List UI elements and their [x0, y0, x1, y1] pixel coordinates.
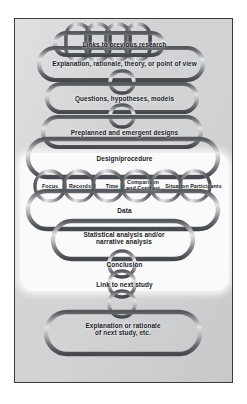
analysis-line-1: Statistical analysis and/or [83, 231, 164, 238]
design-element-label-participants: Participants [181, 183, 231, 189]
stage-label-preplanned-emergent-designs: Preplanned and emergent designs [15, 129, 233, 136]
stage-label-link-to-next-study: Link to next study [15, 281, 233, 288]
stage-label-explanation-next-study: Explanation or rationale of next study, … [45, 322, 201, 337]
stage-label-links-to-previous-research: Links to previous research [15, 41, 233, 48]
comparison-line-2: and Contrast [126, 185, 160, 191]
stage-label-statistical-narrative-analysis: Statistical analysis and/or narrative an… [45, 231, 203, 246]
stage-label-data: Data [15, 207, 233, 214]
diagram-frame: Links to previous research Explanation, … [14, 18, 233, 383]
next-study-line-1: Explanation or rationale [85, 322, 160, 329]
chain-link-stack: Links to previous research Explanation, … [15, 19, 232, 382]
analysis-line-2: narrative analysis [96, 238, 152, 245]
next-study-line-2: of next study, etc. [95, 329, 151, 336]
stage-label-design-procedure: Design/procedure [15, 155, 233, 162]
stage-label-conclusion: Conclusion [15, 261, 233, 268]
stage-label-explanation-rationale-theory: Explanation, rationale, theory, or point… [15, 60, 233, 67]
stage-label-questions-hypotheses-models: Questions, hypotheses, models [15, 95, 233, 102]
